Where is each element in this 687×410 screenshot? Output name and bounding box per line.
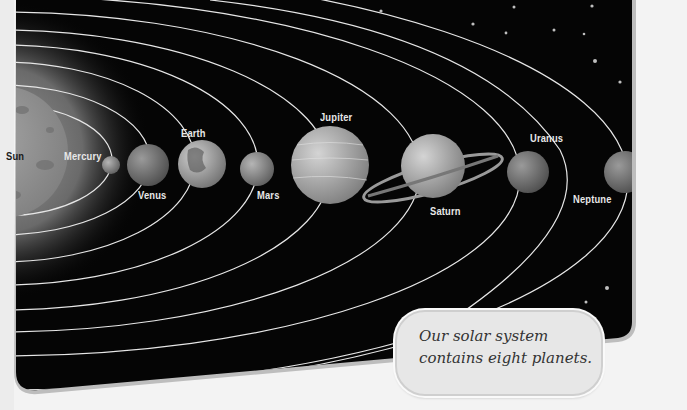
caption-line-1: Our solar system	[419, 325, 592, 347]
planet-label-venus: Venus	[138, 189, 166, 201]
planet-mercury	[102, 156, 120, 174]
planet-venus	[127, 144, 169, 186]
planet-label-saturn: Saturn	[430, 205, 461, 217]
sun-label: Sun	[6, 150, 24, 162]
planet-saturn	[401, 134, 465, 198]
solar-system-diagram: Sun Mercury Venus Earth Mars Jupiter Sat…	[0, 0, 687, 410]
planet-label-jupiter: Jupiter	[320, 111, 352, 123]
planet-label-neptune: Neptune	[573, 193, 612, 205]
planet-jupiter	[291, 126, 369, 204]
caption-callout: Our solar system contains eight planets.	[395, 310, 603, 396]
planet-label-uranus: Uranus	[530, 132, 563, 144]
caption-line-2: contains eight planets.	[419, 347, 592, 369]
planet-label-mars: Mars	[257, 189, 280, 201]
planet-mars	[240, 152, 274, 186]
planet-label-earth: Earth	[181, 127, 206, 139]
planet-uranus	[507, 151, 549, 193]
caption-text: Our solar system contains eight planets.	[419, 325, 592, 369]
planet-label-mercury: Mercury	[64, 150, 102, 162]
